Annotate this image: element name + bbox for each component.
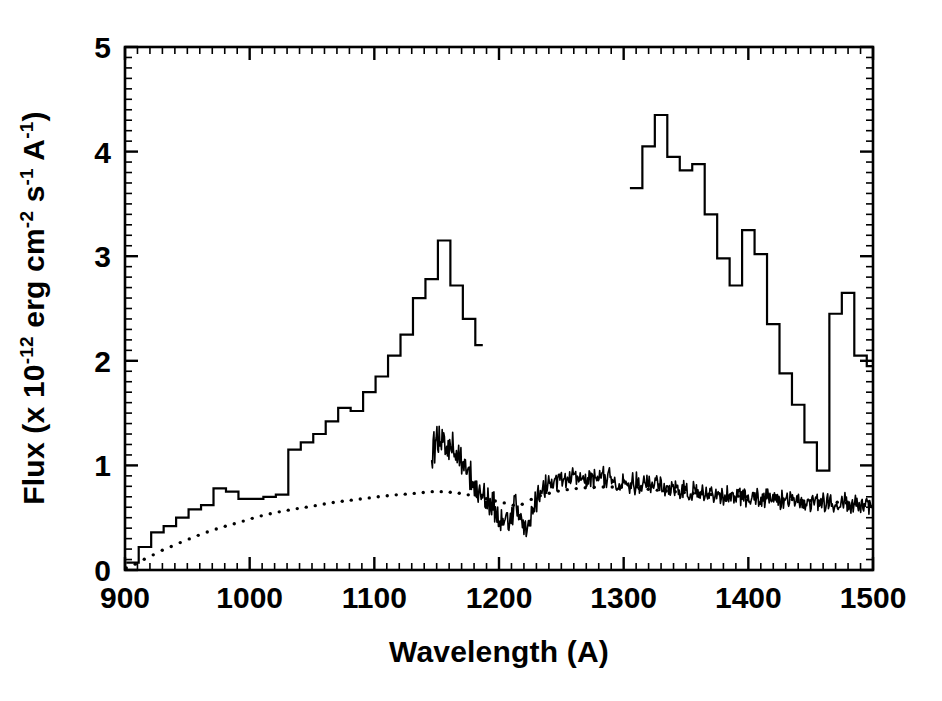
continuum-dot [224,525,227,528]
continuum-dot [287,508,290,511]
spectrum-figure: 900100011001200130014001500 012345 Wavel… [0,0,942,701]
continuum-dot [350,498,353,501]
continuum-dot [422,491,425,494]
continuum-dot [503,501,506,504]
continuum-dot [368,496,371,499]
continuum-dot [404,492,407,495]
continuum-dot [323,502,326,505]
continuum-dot [656,488,659,491]
continuum-dot [188,537,191,540]
continuum-dot [413,492,416,495]
x-tick-label: 1100 [342,581,407,614]
continuum-dot [215,527,218,530]
x-axis-label: Wavelength (A) [389,635,609,668]
continuum-dot [359,497,362,500]
continuum-dot [341,500,344,503]
continuum-dot [395,493,398,496]
continuum-dot [521,502,524,505]
y-tick-label: 2 [94,345,111,378]
continuum-dot [449,491,452,494]
flux-wavelength-chart: 900100011001200130014001500 012345 Wavel… [0,0,942,701]
continuum-dot [197,534,200,537]
continuum-dot [269,512,272,515]
x-tick-label: 1000 [216,581,283,614]
y-tick-label: 1 [94,449,111,482]
y-tick-label: 4 [94,136,111,169]
continuum-dot [179,541,182,544]
continuum-dot [242,519,245,522]
continuum-dot [458,492,461,495]
y-tick-label: 0 [94,554,111,587]
continuum-dot [152,553,155,556]
x-tick-label: 1200 [466,581,533,614]
continuum-dot [467,493,470,496]
continuum-dot [161,549,164,552]
continuum-dot [278,510,281,513]
x-tick-label: 1300 [590,581,657,614]
continuum-dot [143,558,146,561]
continuum-dot [440,490,443,493]
continuum-dot [296,507,299,510]
continuum-dot [548,492,551,495]
continuum-dot [647,488,650,491]
continuum-dot [125,566,128,569]
continuum-dot [575,487,578,490]
continuum-dot [233,522,236,525]
continuum-dot [170,545,173,548]
continuum-dot [260,514,263,517]
x-tick-label: 1400 [715,581,782,614]
continuum-dot [251,517,254,520]
continuum-dot [377,495,380,498]
continuum-dot [314,504,317,507]
continuum-dot [611,485,614,488]
continuum-dot [206,530,209,533]
x-tick-label: 1500 [840,581,907,614]
continuum-dot [305,505,308,508]
continuum-dot [530,498,533,501]
y-tick-label: 5 [94,31,111,64]
y-tick-label: 3 [94,240,111,273]
continuum-dot [386,494,389,497]
continuum-dot [431,490,434,493]
continuum-dot [332,501,335,504]
